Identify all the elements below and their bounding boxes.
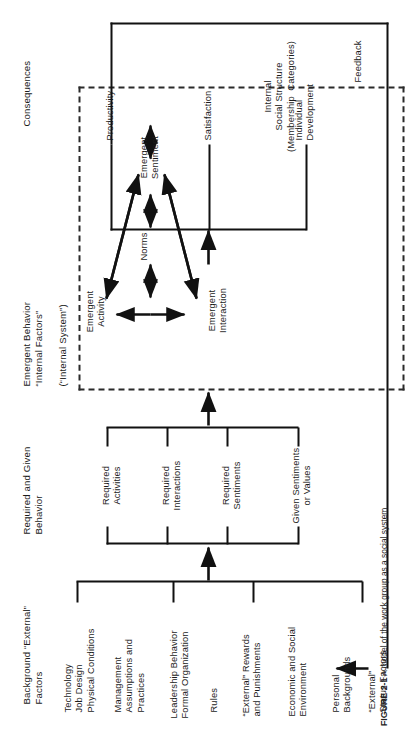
section-label-background: Background “External” Factors (20, 554, 44, 704)
figure-caption-text: A model of the work group as a social sy… (379, 508, 389, 676)
section-label-internal-system: (“Internal System”) (56, 236, 68, 386)
background-item-technology-job-design: Technology Job Design Physical Condition… (62, 588, 96, 712)
feedback-label: Feedback (352, 2, 363, 82)
consequence-individual-development: Individual Development (293, 30, 316, 140)
section-label-consequences: Consequences (20, 16, 32, 126)
required-item-activities: Required Activities (100, 440, 123, 530)
consequences-arm-individual-development (305, 144, 307, 230)
feedback-line-right (110, 22, 388, 24)
background-item-leadership-behavior: Leadership Behavior Formal Organization (168, 584, 191, 718)
node-emergent-interaction: Emergent Interaction (206, 264, 229, 356)
feedback-line-top-stub (110, 22, 112, 144)
consequences-arm-satisfaction (208, 144, 210, 230)
background-tick-4 (361, 581, 363, 602)
required-left-bracket-spine (106, 542, 298, 544)
background-item-economic-social-environment: Economic and Social Environment (286, 586, 309, 716)
required-item-interactions: Required Interactions (160, 440, 183, 530)
figure-page: Background “External” Factors Technology… (0, 0, 415, 730)
consequences-arm-productivity (110, 144, 112, 230)
required-item-given-sentiments: Given Sentiments or Values (290, 434, 313, 536)
background-item-external-rewards: “External” Rewards and Punishments (240, 586, 263, 716)
background-item-management-assumptions: Management Assumptions and Practices (112, 588, 146, 712)
figure-caption: FIGURE 2-1 A model of the work group as … (379, 486, 389, 726)
section-label-required-given: Required and Given Behavior (20, 414, 44, 534)
node-norms: Norms (138, 216, 149, 276)
diagram-canvas: Background “External” Factors Technology… (0, 0, 415, 730)
node-emergent-sentiment: Emergent Sentiment (138, 114, 161, 200)
internal-system-box (78, 86, 404, 390)
figure-caption-prefix: FIGURE 2-1 (379, 678, 389, 726)
required-right-bracket-spine (106, 426, 298, 428)
node-emergent-activity: Emergent Activity (84, 270, 107, 352)
background-item-rules: Rules (208, 588, 219, 712)
required-item-sentiments: Required Sentiments (220, 440, 243, 530)
consequence-satisfaction: Satisfaction (202, 30, 213, 140)
background-bracket-spine (76, 580, 362, 582)
section-label-emergent-behavior: Emergent Behavior “Internal Factors” (20, 236, 44, 386)
node-internal-social-structure: Internal Social Structure (Membership Ca… (262, 14, 296, 178)
background-item-personal-backgrounds: Personal Backgrounds (330, 588, 353, 712)
